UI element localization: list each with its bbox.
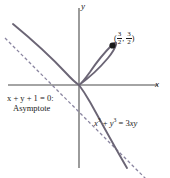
asymptote-word-text: Asymptote (7, 104, 54, 114)
loop-point-annotation: ( 3 2 , 3 2 ) (114, 31, 134, 47)
asymptote-annotation: x + y + 1 = 0: Asymptote (7, 94, 54, 114)
point-close-paren: ) (132, 34, 135, 43)
curve-equation-annotation: x3 + y3 = 3xy (94, 119, 137, 129)
equation-equals-sign: = 3 (116, 118, 129, 128)
y-axis-label: y (81, 1, 85, 11)
x-axis-label: x (155, 79, 159, 89)
folium-of-descartes-figure: x y x + y + 1 = 0: Asymptote x3 + y3 = 3… (0, 0, 170, 178)
equation-right-side: xy (130, 118, 138, 128)
plot-canvas (0, 0, 170, 178)
equation-plus-sign: + (101, 118, 110, 128)
